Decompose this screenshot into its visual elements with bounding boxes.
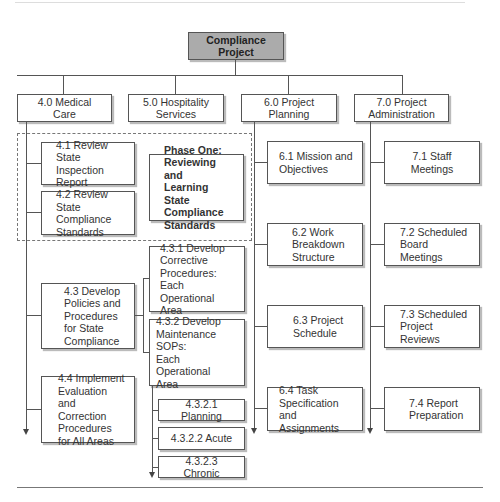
tick-6-1 <box>254 162 267 163</box>
node-label: 7.3 Scheduled Project Reviews <box>400 308 471 346</box>
node-label: 4.1 Review State Inspection Report <box>56 139 126 189</box>
node-label: 4.3.2 Develop Maintenance SOPs: Each Ope… <box>156 315 236 390</box>
node-4-3-2-2: 4.3.2.2 Acute <box>158 427 245 450</box>
node-label: 4.3 Develop Policies and Procedures for … <box>64 285 121 348</box>
node-label: 7.2 Scheduled Board Meetings <box>400 226 471 264</box>
node-label: 6.0 Project Planning <box>250 96 328 121</box>
node-6-0-project-planning: 6.0 Project Planning <box>241 94 337 122</box>
arrow-down-icon <box>23 429 29 435</box>
arrow-down-icon <box>149 472 155 478</box>
node-7-4: 7.4 Report Preparation <box>384 387 480 431</box>
bottom-rule <box>17 487 483 488</box>
tick-7-2 <box>370 244 384 245</box>
node-6-2: 6.2 Work Breakdown Structure <box>267 223 363 266</box>
root-connector <box>235 60 236 75</box>
node-5-0-hospitality-services: 5.0 Hospitality Services <box>128 94 224 122</box>
node-label: 4.3.1 Develop Corrective Procedures: Eac… <box>160 242 236 317</box>
node-4-3-2-1: 4.3.2.1 Planning <box>158 399 245 421</box>
arrow-down-icon <box>251 428 257 434</box>
node-label: 4.3.2.1 Planning <box>167 398 236 423</box>
node-label: 6.4 Task Specification and Assignments <box>279 384 354 434</box>
tick-4-4 <box>26 409 41 410</box>
node-7-2: 7.2 Scheduled Board Meetings <box>384 223 480 266</box>
tick-4-1 <box>26 163 41 164</box>
tick-4-2 <box>26 212 41 213</box>
tick-7-3 <box>370 326 384 327</box>
tick-7-4 <box>370 408 384 409</box>
node-6-1: 6.1 Mission and Objectives <box>267 141 363 184</box>
node-4-3-2-3: 4.3.2.3 Chronic <box>158 456 245 478</box>
node-label: 4.0 Medical Care <box>26 96 103 121</box>
tick-6-3 <box>254 326 267 327</box>
spine-7-0 <box>370 122 371 429</box>
node-label: 5.0 Hospitality Services <box>143 96 209 121</box>
drop-6-0 <box>288 75 289 94</box>
tick-4-3 <box>26 315 41 316</box>
tick-6-4 <box>254 408 267 409</box>
drop-4-0 <box>63 75 64 94</box>
node-4-3-1: 4.3.1 Develop Corrective Procedures: Eac… <box>149 246 245 312</box>
node-7-3: 7.3 Scheduled Project Reviews <box>384 305 480 348</box>
level1-bus <box>17 75 403 76</box>
bracket-4-3 <box>143 278 144 353</box>
node-4-3-2: 4.3.2 Develop Maintenance SOPs: Each Ope… <box>149 319 245 386</box>
node-label: 7.1 Staff Meetings <box>393 150 471 175</box>
node-label: 6.3 Project Schedule <box>293 314 343 339</box>
node-label: 7.0 Project Administration <box>368 96 435 121</box>
node-label: 7.4 Report Preparation <box>409 397 463 422</box>
arrow-down-icon <box>367 428 373 434</box>
tick-7-1 <box>370 162 384 163</box>
phase-label: Phase One: Reviewing and Learning State … <box>164 144 235 232</box>
node-7-0-project-administration: 7.0 Project Administration <box>354 94 449 122</box>
node-label: 6.1 Mission and Objectives <box>279 150 353 175</box>
node-label: 6.2 Work Breakdown Structure <box>292 226 345 264</box>
spine-4-3-2 <box>152 386 153 473</box>
top-rule <box>15 2 465 3</box>
node-label: 4.3.2.2 Acute <box>171 432 232 445</box>
drop-5-0 <box>175 75 176 94</box>
node-label: 4.2 Review State Compliance Standards <box>56 188 126 238</box>
drop-7-0 <box>402 75 403 94</box>
spine-4-0 <box>26 122 27 430</box>
root-node-compliance-project: Compliance Project <box>188 32 284 60</box>
tick-6-2 <box>254 244 267 245</box>
node-4-1: 4.1 Review State Inspection Report <box>41 142 135 185</box>
node-4-2: 4.2 Review State Compliance Standards <box>41 191 135 235</box>
node-4-0-medical-care: 4.0 Medical Care <box>17 94 112 122</box>
node-6-4: 6.4 Task Specification and Assignments <box>267 387 363 431</box>
node-6-3: 6.3 Project Schedule <box>267 305 363 348</box>
node-4-3: 4.3 Develop Policies and Procedures for … <box>41 283 135 349</box>
spine-6-0 <box>254 122 255 429</box>
node-7-1: 7.1 Staff Meetings <box>384 141 480 184</box>
node-label: 4.4 Implement Evaluation and Correction … <box>58 372 126 447</box>
node-4-4: 4.4 Implement Evaluation and Correction … <box>41 376 135 443</box>
root-label: Compliance Project <box>197 34 275 59</box>
phase-one-label-box: Phase One: Reviewing and Learning State … <box>149 154 244 221</box>
node-label: 4.3.2.3 Chronic <box>167 455 236 480</box>
connector-4-3-out <box>135 315 143 316</box>
